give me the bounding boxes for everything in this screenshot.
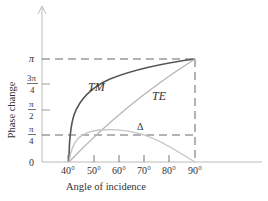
y-axis-title: Phase change <box>6 81 17 138</box>
y-label-pi4: π 4 <box>28 124 36 146</box>
x-label-60: 60° <box>112 165 126 176</box>
svg-text:4: 4 <box>29 136 34 146</box>
x-label-90: 90° <box>188 165 202 176</box>
te-curve <box>69 59 195 162</box>
x-axis-title: Angle of incidence <box>66 181 146 192</box>
phase-change-chart: TM TE Δ π 3π 4 π 2 π 4 0 40° 50° 60° 70°… <box>0 0 268 201</box>
x-label-40: 40° <box>61 165 75 176</box>
svg-text:3π: 3π <box>27 73 37 83</box>
tm-label: TM <box>88 80 106 94</box>
y-label-3pi4: 3π 4 <box>27 73 38 95</box>
svg-text:π: π <box>29 124 34 134</box>
svg-text:2: 2 <box>29 111 34 121</box>
delta-label: Δ <box>137 121 144 132</box>
y-label-pi2: π 2 <box>28 99 36 121</box>
tm-curve <box>69 59 195 162</box>
y-label-zero: 0 <box>29 157 34 168</box>
x-ticks <box>68 155 169 162</box>
te-label: TE <box>152 89 167 103</box>
x-label-50: 50° <box>87 165 101 176</box>
svg-text:π: π <box>29 99 34 109</box>
x-label-70: 70° <box>137 165 151 176</box>
y-label-pi: π <box>29 53 35 64</box>
svg-text:4: 4 <box>30 85 35 95</box>
x-label-80: 80° <box>162 165 176 176</box>
